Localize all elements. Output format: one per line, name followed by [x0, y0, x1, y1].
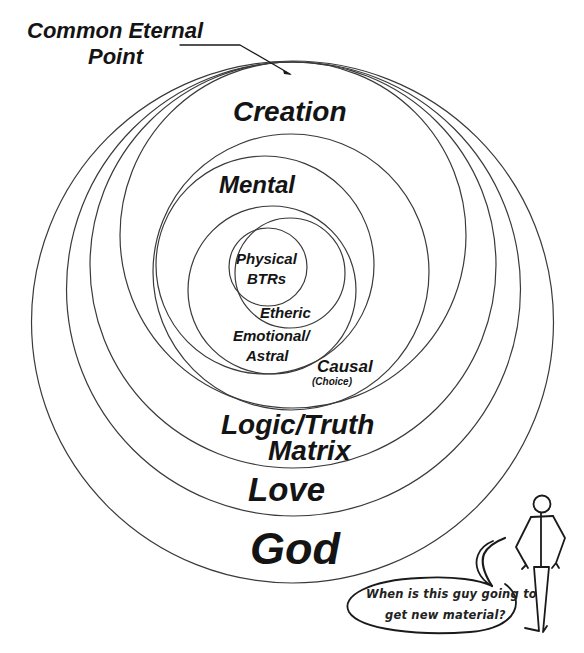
stick-figure-head [534, 496, 551, 513]
speech-bubble: When is this guy going to get new materi… [347, 538, 537, 633]
stick-figure-right-arm [552, 516, 565, 568]
label-creation: Creation [233, 96, 347, 127]
ring-physical [229, 228, 307, 306]
pointer-label-line1: Common Eternal [27, 18, 204, 43]
label-god: God [250, 523, 341, 574]
label-love: Love [248, 471, 325, 508]
label-btrs: BTRs [247, 270, 286, 287]
label-causal: Causal [317, 357, 374, 376]
label-physical: Physical [236, 250, 298, 267]
cosmology-diagram: Common Eternal Point Creation Mental Phy… [0, 0, 584, 653]
label-astral: Astral [245, 347, 289, 364]
label-mental: Mental [219, 171, 296, 198]
pointer-label-line2: Point [88, 44, 145, 69]
stick-figure-shoulders [531, 516, 553, 517]
speech-bubble-line1: When is this guy going to [366, 587, 537, 601]
diagram-canvas: Common Eternal Point Creation Mental Phy… [0, 0, 584, 653]
stick-figure [516, 496, 565, 633]
label-etheric: Etheric [260, 304, 312, 321]
label-causal-choice: (Choice) [312, 376, 353, 387]
speech-bubble-line2: get new material? [385, 608, 506, 622]
stick-figure-left-arm [516, 517, 531, 569]
label-matrix: Matrix [268, 435, 352, 466]
label-emotional: Emotional/ [233, 327, 312, 344]
